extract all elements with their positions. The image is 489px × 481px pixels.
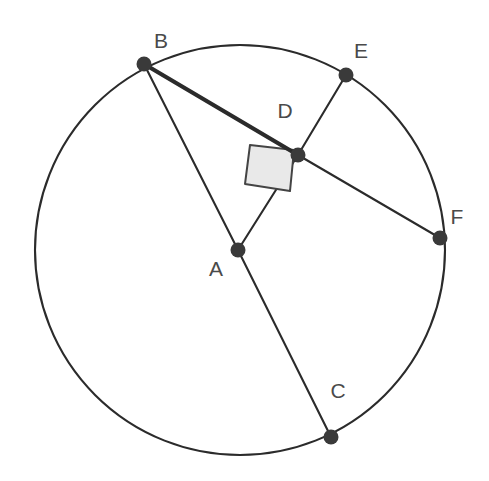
point-E — [339, 68, 354, 83]
point-B — [137, 57, 152, 72]
segment-DF — [298, 155, 440, 238]
point-label-E: E — [354, 39, 368, 62]
point-label-B: B — [154, 29, 168, 52]
point-C — [324, 430, 339, 445]
point-label-D: D — [277, 99, 292, 122]
geometry-diagram: A B C D E F — [0, 0, 489, 481]
geometry-canvas: A B C D E F — [0, 0, 489, 481]
point-F — [433, 231, 448, 246]
point-A — [231, 243, 246, 258]
point-D — [291, 148, 306, 163]
right-angle-at-D — [245, 145, 294, 191]
point-label-A: A — [209, 257, 223, 280]
point-label-C: C — [330, 379, 345, 402]
segment-AC — [238, 250, 331, 437]
point-label-F: F — [451, 205, 464, 228]
segment-DE — [298, 75, 346, 155]
